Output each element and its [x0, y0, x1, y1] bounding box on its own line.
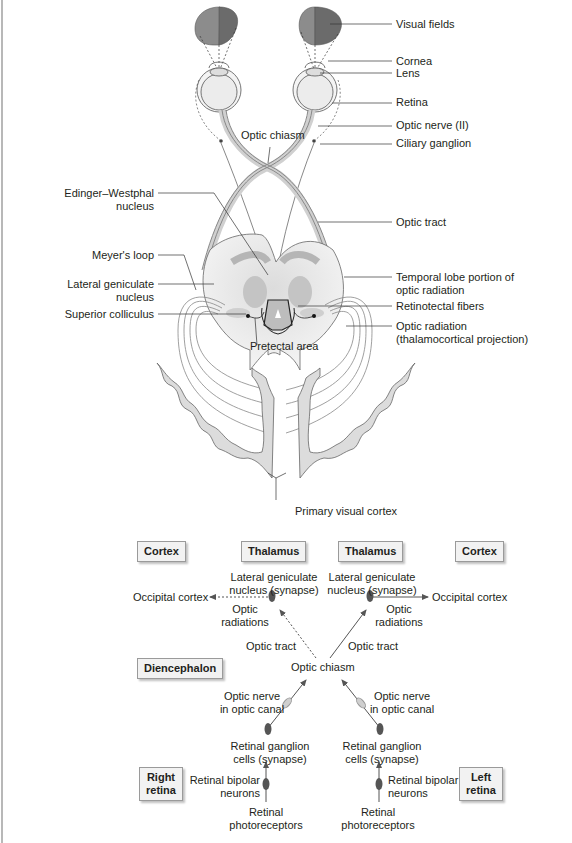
- label-visual-fields: Visual fields: [396, 18, 455, 31]
- flow-optic-chiasm: Optic chiasm: [291, 661, 355, 674]
- optic-canal-rings: [281, 696, 367, 709]
- flow-left-occipital: Occipital cortex: [133, 591, 208, 604]
- flow-right-radiations: Optic radiations: [374, 603, 424, 629]
- flow-right-optic-tract: Optic tract: [348, 640, 398, 653]
- box-cortex-right: Cortex: [455, 541, 504, 562]
- flow-left-optic-tract: Optic tract: [246, 640, 296, 653]
- label-pretectal-area: Pretectal area: [250, 340, 318, 353]
- label-optic-nerve: Optic nerve (II): [396, 119, 469, 132]
- ciliary-ganglion-right: [312, 139, 316, 143]
- flow-right-bipolar: Retinal bipolar neurons: [388, 774, 458, 800]
- flow-left-optic-nerve: Optic nerve in optic canal: [212, 690, 292, 716]
- box-left-retina: Left retina: [459, 767, 503, 801]
- flow-right-optic-nerve: Optic nerve in optic canal: [362, 690, 442, 716]
- occipital-cortex: [157, 363, 415, 478]
- label-meyers-loop: Meyer's loop: [50, 249, 154, 262]
- visual-field-left: [195, 7, 238, 45]
- eye-left: [197, 62, 241, 112]
- visual-pathway-illustration: [0, 0, 572, 843]
- box-right-retina: Right retina: [139, 767, 183, 801]
- label-superior-colliculus: Superior colliculus: [40, 308, 154, 321]
- box-thalamus-left: Thalamus: [241, 541, 306, 562]
- flow-left-bipolar: Retinal bipolar neurons: [180, 774, 260, 800]
- label-ciliary-ganglion: Ciliary ganglion: [396, 137, 471, 150]
- eye-right: [293, 62, 337, 112]
- label-retina: Retina: [396, 96, 428, 109]
- label-optic-tract: Optic tract: [396, 216, 446, 229]
- label-primary-visual-cortex: Primary visual cortex: [295, 505, 397, 518]
- label-temporal-lobe: Temporal lobe portion of optic radiation: [396, 271, 514, 297]
- flow-left-lgn: Lateral geniculate nucleus (synapse): [224, 571, 324, 597]
- flow-right-photoreceptors: Retinal photoreceptors: [338, 806, 418, 832]
- box-thalamus-right: Thalamus: [338, 541, 403, 562]
- box-cortex-left: Cortex: [137, 541, 186, 562]
- ciliary-ganglion-left: [219, 139, 223, 143]
- label-retinotectal-fibers: Retinotectal fibers: [396, 300, 484, 313]
- label-lateral-geniculate: Lateral geniculate nucleus: [50, 278, 154, 304]
- flow-left-radiations: Optic radiations: [220, 603, 270, 629]
- flow-left-ganglion: Retinal ganglion cells (synapse): [225, 740, 315, 766]
- flow-right-ganglion: Retinal ganglion cells (synapse): [337, 740, 427, 766]
- flow-right-lgn: Lateral geniculate nucleus (synapse): [322, 571, 422, 597]
- label-edinger-westphal: Edinger–Westphal nucleus: [50, 187, 154, 213]
- visual-field-right: [299, 7, 341, 45]
- label-optic-chiasm: Optic chiasm: [241, 129, 305, 142]
- box-diencephalon: Diencephalon: [137, 658, 223, 679]
- label-optic-radiation: Optic radiation (thalamocortical project…: [396, 320, 528, 346]
- flow-right-occipital: Occipital cortex: [432, 591, 507, 604]
- label-lens: Lens: [396, 67, 420, 80]
- flow-left-photoreceptors: Retinal photoreceptors: [226, 806, 306, 832]
